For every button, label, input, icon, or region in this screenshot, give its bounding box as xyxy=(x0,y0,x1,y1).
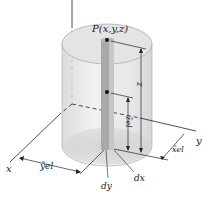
element-dx-label: dx xyxy=(134,173,145,183)
axis-x-label: x xyxy=(6,163,12,174)
centroid-z-label: z̃el xyxy=(124,115,133,128)
point-p-label: P(x,y,z) xyxy=(91,23,128,34)
axis-y-label: y xyxy=(195,135,202,146)
point-p xyxy=(105,38,109,42)
centroid-y-label: ỹel xyxy=(39,161,53,171)
centroid-point xyxy=(105,90,109,94)
centroid-x-label: x̃el xyxy=(172,145,184,154)
cylinder-volume-element-diagram: P(x,y,z) z z̃el x̃el ỹel x y dy dx xyxy=(0,0,203,204)
x-axis xyxy=(10,114,60,162)
element-dy-label: dy xyxy=(101,181,113,191)
diagram-canvas: P(x,y,z) z z̃el x̃el ỹel x y dy dx xyxy=(0,0,203,204)
height-z-label: z xyxy=(135,81,145,87)
